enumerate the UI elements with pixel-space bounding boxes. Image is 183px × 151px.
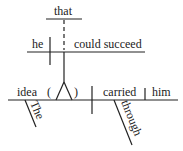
word-through: through bbox=[118, 98, 145, 138]
paren-close: ) bbox=[74, 85, 78, 99]
word-idea: idea bbox=[17, 85, 38, 99]
sentence-diagram: that he could succeed idea ( ) carried h… bbox=[0, 0, 183, 151]
paren-open: ( bbox=[47, 85, 51, 99]
word-him: him bbox=[152, 85, 171, 99]
word-he: he bbox=[32, 37, 43, 51]
word-the: The bbox=[27, 99, 47, 122]
pedestal-leg-left bbox=[56, 82, 64, 100]
word-could-succeed: could succeed bbox=[74, 37, 142, 51]
word-that: that bbox=[54, 4, 73, 18]
pedestal-leg-right bbox=[64, 82, 72, 100]
